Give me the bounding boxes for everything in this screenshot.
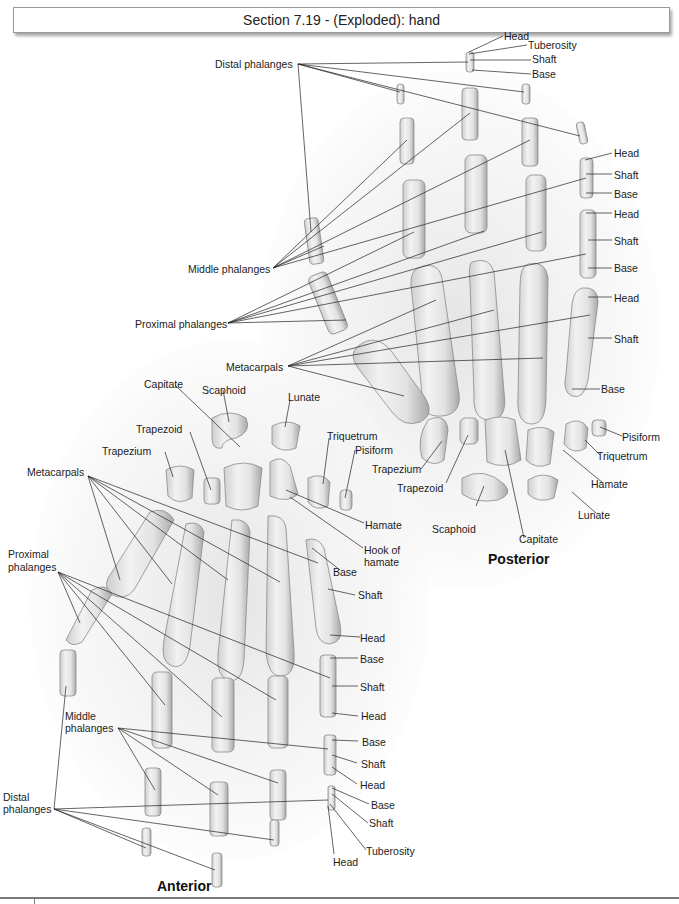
label-anterior-distal-phalanges-1: Distal	[3, 791, 29, 803]
label-posterior-metacarpals: Metacarpals	[226, 361, 283, 373]
label-posterior-hamate: Hamate	[591, 478, 628, 490]
label-posterior-capitate: Capitate	[519, 533, 558, 545]
label-posterior-meta-shaft: Shaft	[614, 333, 639, 345]
label-posterior-meta-head: Head	[614, 292, 639, 304]
label-anterior-distal-phalanges-2: phalanges	[3, 803, 51, 815]
label-anterior-distal-head: Head	[333, 856, 358, 868]
label-posterior-proximal-shaft: Shaft	[614, 235, 639, 247]
label-anterior-meta-shaft: Shaft	[358, 589, 383, 601]
label-posterior-middle-shaft: Shaft	[614, 169, 639, 181]
view-label-posterior: Posterior	[488, 551, 549, 567]
label-posterior-middle-phalanges: Middle phalanges	[188, 263, 270, 275]
label-anterior-middle-base: Base	[362, 736, 386, 748]
label-posterior-proximal-head: Head	[614, 208, 639, 220]
label-anterior-trapezoid: Trapezoid	[136, 423, 182, 435]
label-anterior-pisiform: Pisiform	[355, 444, 393, 456]
bottom-divider	[0, 897, 679, 899]
label-posterior-lunate: Lunate	[578, 509, 610, 521]
bottom-divider-tick	[34, 897, 35, 904]
section-title: Section 7.19 - (Exploded): hand	[13, 7, 670, 33]
label-anterior-proximal-base: Base	[360, 653, 384, 665]
label-anterior-proximal-shaft: Shaft	[360, 681, 385, 693]
label-anterior-triquetrum: Triquetrum	[327, 430, 377, 442]
label-anterior-capitate: Capitate	[144, 378, 183, 390]
label-posterior-proximal-base: Base	[614, 262, 638, 274]
label-posterior-pisiform: Pisiform	[622, 431, 660, 443]
hand-exploded-figure: Section 7.19 - (Exploded): hand Distal p…	[0, 0, 679, 904]
label-posterior-distal-base: Base	[532, 68, 556, 80]
label-anterior-proximal-phalanges-2: phalanges	[8, 561, 56, 573]
label-posterior-trapezoid: Trapezoid	[397, 482, 443, 494]
view-label-anterior: Anterior	[157, 878, 211, 894]
label-anterior-scaphoid: Scaphoid	[202, 384, 246, 396]
label-anterior-meta-base: Base	[333, 566, 357, 578]
label-anterior-middle-phalanges-1: Middle	[65, 710, 96, 722]
label-anterior-distal-tuberosity: Tuberosity	[366, 845, 415, 857]
label-posterior-distal-phalanges: Distal phalanges	[215, 58, 293, 70]
label-anterior-proximal-head: Head	[361, 710, 386, 722]
label-anterior-metacarpals: Metacarpals	[27, 466, 84, 478]
label-posterior-distal-head: Head	[504, 30, 529, 42]
label-posterior-trapezium: Trapezium	[372, 463, 421, 475]
label-anterior-hamate: Hamate	[365, 519, 402, 531]
label-anterior-middle-phalanges-2: phalanges	[65, 722, 113, 734]
label-posterior-middle-head: Head	[614, 147, 639, 159]
label-posterior-meta-base: Base	[601, 383, 625, 395]
label-anterior-distal-base: Base	[371, 799, 395, 811]
label-posterior-distal-tuberosity: Tuberosity	[528, 39, 577, 51]
label-posterior-proximal-phalanges: Proximal phalanges	[135, 318, 227, 330]
label-posterior-middle-base: Base	[614, 188, 638, 200]
label-posterior-distal-shaft: Shaft	[532, 53, 557, 65]
label-anterior-trapezium: Trapezium	[102, 445, 151, 457]
label-anterior-meta-head: Head	[360, 632, 385, 644]
label-anterior-middle-shaft: Shaft	[361, 758, 386, 770]
label-anterior-distal-shaft: Shaft	[369, 817, 394, 829]
label-anterior-lunate: Lunate	[288, 391, 320, 403]
label-anterior-hook-of-hamate-1: Hook of	[364, 544, 400, 556]
label-anterior-middle-head: Head	[360, 779, 385, 791]
label-anterior-proximal-phalanges-1: Proximal	[8, 548, 49, 560]
label-posterior-triquetrum: Triquetrum	[597, 450, 647, 462]
label-anterior-hook-of-hamate-2: hamate	[364, 556, 399, 568]
label-posterior-scaphoid: Scaphoid	[432, 523, 476, 535]
